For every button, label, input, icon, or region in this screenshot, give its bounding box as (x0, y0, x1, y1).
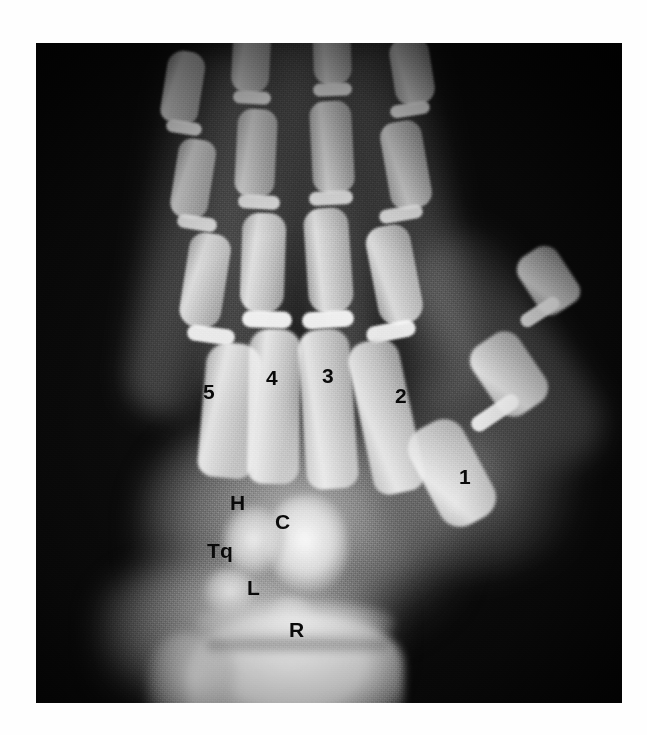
figure-page: 5 4 3 2 1 H C Tq L R (0, 0, 647, 735)
bone-proximal-phalanx-4 (239, 212, 286, 313)
label-triquetrum: Tq (207, 540, 233, 561)
label-metacarpal-5: 5 (203, 381, 215, 402)
bone-metacarpal-4 (247, 329, 302, 485)
label-lunate: L (247, 577, 260, 598)
epiphysis-middle-4 (238, 194, 281, 210)
label-metacarpal-4: 4 (266, 367, 278, 388)
epiphysis-distal-3 (313, 82, 352, 96)
label-hamate: H (230, 492, 245, 513)
label-capitate: C (275, 511, 290, 532)
bone-distal-phalanx-4 (230, 43, 271, 94)
label-metacarpal-3: 3 (322, 365, 334, 386)
bone-distal-phalanx-3 (312, 43, 352, 86)
bone-middle-phalanx-3 (309, 100, 356, 194)
bone-proximal-phalanx-3 (302, 207, 354, 315)
label-metacarpal-1: 1 (459, 466, 471, 487)
label-radius: R (289, 619, 304, 640)
label-metacarpal-2: 2 (395, 385, 407, 406)
epiphysis-middle-3 (309, 190, 354, 206)
epiphysis-proximal-3 (301, 309, 354, 330)
epiphysis-proximal-4 (242, 310, 293, 329)
epiphysis-distal-4 (233, 90, 272, 105)
bone-middle-phalanx-4 (234, 108, 279, 198)
